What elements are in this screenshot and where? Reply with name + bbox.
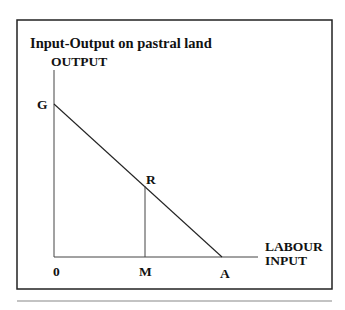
- point-m-label: M: [139, 264, 152, 279]
- point-g-label: G: [37, 97, 48, 112]
- x-axis-label-line1: LABOUR: [265, 239, 323, 254]
- origin-label: 0: [53, 264, 60, 279]
- point-a-label: A: [220, 266, 230, 281]
- input-output-diagram: Input-Output on pastral land OUTPUT G R …: [0, 0, 345, 310]
- point-r-label: R: [146, 172, 156, 187]
- output-line-ga: [54, 104, 222, 257]
- y-axis-label: OUTPUT: [51, 54, 107, 69]
- diagram-title: Input-Output on pastral land: [30, 35, 212, 51]
- x-axis-label-line2: INPUT: [265, 253, 307, 268]
